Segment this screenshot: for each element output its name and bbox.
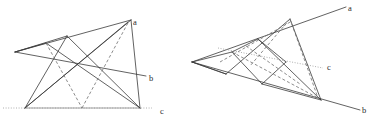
- right-edge-lower-left-diag: [232, 52, 262, 84]
- geometry-figure-pair: a b c a b c: [0, 0, 379, 123]
- right-dashed-low-to-hinge2: [220, 21, 292, 62]
- right-ray-b: [192, 62, 360, 110]
- right-dashed-hinge-to-conv: [290, 19, 318, 98]
- right-chord-lownode-to-conv: [262, 84, 321, 100]
- right-edge-apex-lowleft: [192, 62, 226, 74]
- right-dashed-hinge-to-low: [250, 19, 290, 66]
- right-label-a: a: [348, 3, 352, 13]
- right-ray-a: [192, 7, 346, 62]
- right-edge-apex-midnode: [192, 52, 232, 62]
- right-label-c: c: [327, 62, 331, 72]
- right-label-b: b: [362, 105, 366, 115]
- right-construction: a b c: [0, 0, 379, 123]
- right-chord-upper-to-conv: [258, 39, 321, 100]
